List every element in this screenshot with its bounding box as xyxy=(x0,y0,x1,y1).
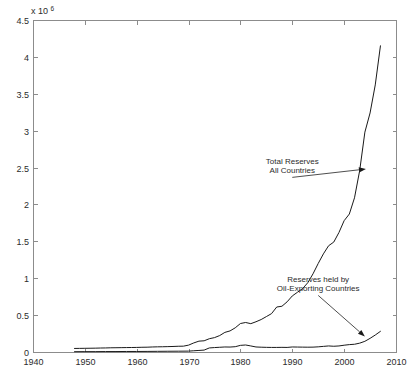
annotation-label-total-reserves: Total ReservesAll Countries xyxy=(266,157,319,176)
reserves-line-chart: 00.511.522.533.544.519401950196019701980… xyxy=(0,0,417,380)
y-tick-label: 1.5 xyxy=(16,237,29,247)
y-tick-label: 1 xyxy=(24,274,29,284)
x-tick-label: 1950 xyxy=(75,357,95,367)
x-tick-label: 1990 xyxy=(282,357,302,367)
y-tick-label: 4 xyxy=(24,53,29,63)
y-tick-label: 4.5 xyxy=(16,16,29,26)
chart-figure: 00.511.522.533.544.519401950196019701980… xyxy=(0,0,417,380)
y-tick-label: 3 xyxy=(24,127,29,137)
y-axis-multiplier: x 10 6 xyxy=(31,5,55,17)
x-tick-label: 2010 xyxy=(386,357,406,367)
x-tick-label: 1970 xyxy=(179,357,199,367)
series-line-total-reserves xyxy=(74,46,380,349)
x-tick-label: 1940 xyxy=(23,357,43,367)
x-tick-label: 1960 xyxy=(127,357,147,367)
y-tick-label: 3.5 xyxy=(16,90,29,100)
x-tick-label: 2000 xyxy=(334,357,354,367)
annotation-leader-oil-exporting xyxy=(318,295,359,331)
y-tick-label: 2 xyxy=(24,200,29,210)
annotation-arrow-total-reserves xyxy=(359,167,366,172)
series-line-oil-exporting xyxy=(74,331,380,351)
annotation-label-oil-exporting: Reserves held byOil-Exporting Countries xyxy=(277,275,360,294)
x-tick-label: 1980 xyxy=(230,357,250,367)
plot-box xyxy=(34,21,397,353)
y-tick-label: 2.5 xyxy=(16,164,29,174)
y-tick-label: 0.5 xyxy=(16,311,29,321)
